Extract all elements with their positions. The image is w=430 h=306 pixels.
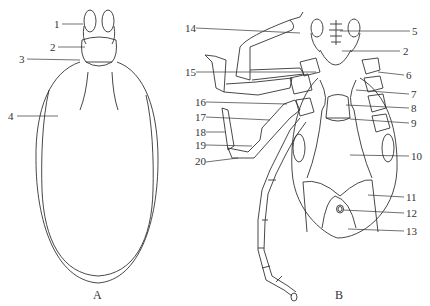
- label-b-11: 11: [406, 192, 417, 203]
- caption-a: A: [93, 288, 102, 303]
- caption-b: B: [335, 288, 343, 303]
- label-a-1: 1: [54, 19, 60, 30]
- label-b-2: 2: [403, 46, 409, 57]
- label-a-4: 4: [8, 111, 14, 122]
- label-b-13: 13: [406, 226, 417, 237]
- label-b-15: 15: [185, 67, 196, 78]
- label-b-10: 10: [411, 151, 422, 162]
- label-b-16: 16: [195, 97, 206, 108]
- label-b-7: 7: [411, 89, 417, 100]
- label-b-17: 17: [195, 112, 206, 123]
- label-b-19: 19: [195, 140, 206, 151]
- label-b-12: 12: [406, 208, 417, 219]
- panel-b-drawing: [205, 12, 397, 301]
- tick-anatomy-figure: 1 2 3 4 A 5 2 6 7 8 9 10 11 12 13 14 15 …: [0, 0, 430, 306]
- label-b-20: 20: [195, 156, 206, 167]
- label-b-8: 8: [411, 103, 417, 114]
- label-b-14: 14: [185, 23, 196, 34]
- label-b-5: 5: [412, 26, 418, 37]
- label-b-18: 18: [195, 127, 206, 138]
- label-b-6: 6: [406, 70, 412, 81]
- label-a-2: 2: [50, 42, 56, 53]
- line-drawing: [0, 0, 430, 306]
- label-a-3: 3: [19, 54, 25, 65]
- label-b-9: 9: [411, 118, 417, 129]
